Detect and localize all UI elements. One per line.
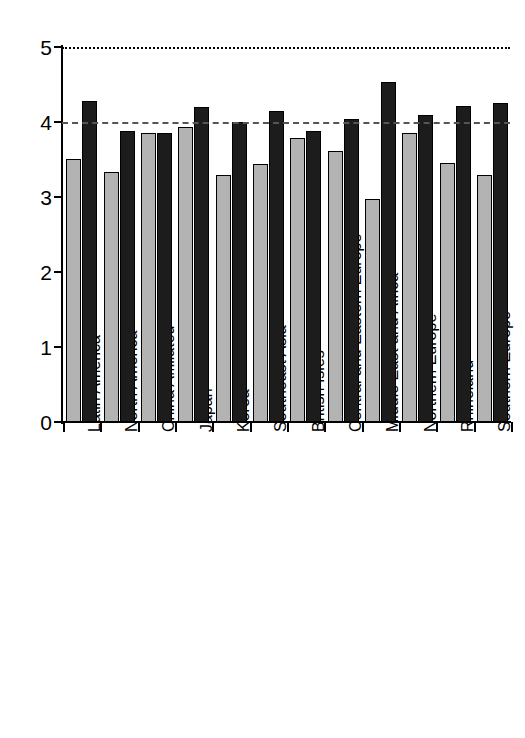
y-tick-label: 4: [40, 112, 52, 133]
mid-reference-line: [62, 122, 510, 124]
bar: [82, 101, 97, 422]
bar: [328, 151, 343, 423]
bar: [365, 199, 380, 423]
bar: [253, 164, 268, 422]
y-tick-mark: [54, 196, 63, 198]
bar-chart: 012345 Latin AmericaNorth AmericaChina A…: [0, 0, 525, 738]
bar: [157, 133, 172, 422]
bar: [493, 103, 508, 422]
y-tick-mark: [54, 346, 63, 348]
y-tick-mark: [54, 421, 63, 423]
bar: [232, 122, 247, 422]
bar: [290, 138, 305, 422]
bar: [216, 175, 231, 423]
bar: [418, 115, 433, 423]
bar: [178, 127, 193, 423]
bar: [344, 119, 359, 422]
y-tick-label: 5: [40, 37, 52, 58]
upper-reference-line: [62, 47, 510, 49]
x-tick-mark: [63, 422, 65, 432]
bar: [120, 131, 135, 422]
bar: [456, 106, 471, 423]
y-tick-label: 2: [40, 262, 52, 283]
bar: [269, 111, 284, 422]
bar: [194, 107, 209, 422]
y-tick-label: 0: [40, 412, 52, 433]
bar: [306, 131, 321, 422]
y-tick-mark: [54, 271, 63, 273]
bar: [66, 159, 81, 422]
y-tick-label: 1: [40, 337, 52, 358]
bar: [402, 133, 417, 422]
bar: [141, 133, 156, 422]
y-tick-label: 3: [40, 187, 52, 208]
bar: [381, 82, 396, 422]
bar: [104, 172, 119, 423]
bar: [477, 175, 492, 422]
bar: [440, 163, 455, 423]
